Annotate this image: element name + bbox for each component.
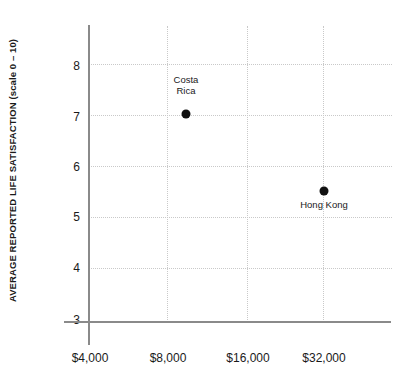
y-tick-label: 4 [60, 262, 80, 274]
gridline-horizontal-5 [88, 217, 392, 218]
gridline-vertical-16000 [247, 26, 248, 322]
x-tick-label-8000: $8,000 [150, 351, 187, 365]
x-axis-baseline [64, 321, 391, 323]
plot-area: CostaRica Hong Kong [88, 26, 392, 322]
gridline-vertical-32000 [323, 26, 324, 322]
point-label-line: Costa [174, 74, 199, 85]
gridline-horizontal-4 [88, 268, 392, 269]
y-axis-title: AVERAGE REPORTED LIFE SATISFACTION (scal… [0, 0, 26, 340]
y-axis-tick-labels: 8 7 6 5 4 3 [46, 0, 80, 387]
y-tick-label: 5 [60, 211, 80, 223]
y-tick-label: 6 [60, 161, 80, 173]
gridline-vertical-8000 [167, 26, 168, 322]
data-point-costa-rica[interactable] [182, 110, 191, 119]
point-label-hong-kong: Hong Kong [300, 200, 348, 211]
point-label-line: Rica [176, 85, 195, 96]
y-axis-line [88, 25, 90, 345]
gridline-horizontal-8 [88, 64, 392, 65]
y-axis-title-text: AVERAGE REPORTED LIFE SATISFACTION (scal… [8, 38, 19, 301]
y-tick-label: 3 [60, 314, 80, 326]
y-tick-label: 8 [60, 60, 80, 72]
gridline-horizontal-7 [88, 115, 392, 116]
point-label-costa-rica: CostaRica [174, 75, 199, 96]
point-label-line: Hong Kong [300, 199, 348, 210]
x-tick-label-32000: $32,000 [302, 351, 345, 365]
data-point-hong-kong[interactable] [320, 187, 329, 196]
gridline-horizontal-6 [88, 166, 392, 167]
scatter-chart: AVERAGE REPORTED LIFE SATISFACTION (scal… [0, 0, 408, 387]
y-tick-label: 7 [60, 111, 80, 123]
x-tick-label-4000: $4,000 [72, 351, 109, 365]
x-tick-label-16000: $16,000 [226, 351, 269, 365]
